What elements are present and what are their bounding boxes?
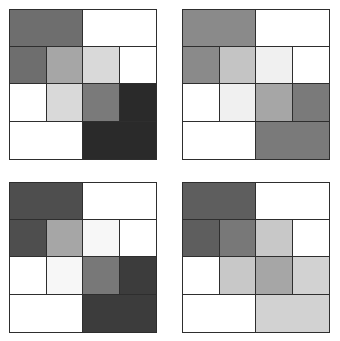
- grid-panel-bottom-right: [182, 182, 330, 333]
- grid-cell: [120, 257, 157, 295]
- grid-cell: [256, 257, 293, 295]
- grid-cell: [220, 84, 257, 122]
- grid-row: [10, 220, 156, 257]
- grid-cell: [256, 47, 293, 84]
- grid-cell: [83, 183, 156, 220]
- grid-cell: [183, 220, 220, 257]
- grid-cell: [220, 257, 257, 295]
- grid-cell: [183, 10, 256, 47]
- grid-cell: [183, 84, 220, 122]
- grid-cell: [47, 220, 84, 257]
- grid-cell: [256, 84, 293, 122]
- grid-cell: [83, 10, 156, 47]
- grid-row: [10, 84, 156, 122]
- grid-cell: [83, 257, 120, 295]
- grid-cell: [10, 257, 47, 295]
- grid-panel-top-left: [9, 9, 157, 160]
- grid-cell: [120, 220, 157, 257]
- grid-row: [183, 183, 329, 220]
- grid-cell: [256, 295, 329, 332]
- grid-cell: [120, 84, 157, 122]
- grid-row: [10, 295, 156, 332]
- grid-cell: [47, 257, 84, 295]
- grid-row: [10, 183, 156, 220]
- grid-cell: [220, 220, 257, 257]
- grid-cell: [256, 183, 329, 220]
- grid-row: [10, 122, 156, 159]
- grid-cell: [293, 84, 330, 122]
- grid-cell: [83, 295, 156, 332]
- grid-cell: [293, 47, 330, 84]
- grid-cell: [183, 295, 256, 332]
- grid-cell: [120, 47, 157, 84]
- grid-cell: [10, 47, 47, 84]
- grid-cell: [293, 257, 330, 295]
- grid-cell: [83, 47, 120, 84]
- grid-row: [183, 122, 329, 159]
- grid-row: [183, 84, 329, 122]
- grid-cell: [293, 220, 330, 257]
- grid-cell: [10, 183, 83, 220]
- grid-cell: [183, 47, 220, 84]
- grid-cell: [256, 220, 293, 257]
- grid-cell: [83, 220, 120, 257]
- grid-cell: [10, 10, 83, 47]
- grid-cell: [10, 295, 83, 332]
- grid-panel-top-right: [182, 9, 330, 160]
- grid-cell: [220, 47, 257, 84]
- grid-panel-bottom-left: [9, 182, 157, 333]
- grid-cell: [10, 84, 47, 122]
- grid-row: [183, 220, 329, 257]
- grid-row: [10, 257, 156, 295]
- grid-cell: [47, 47, 84, 84]
- grid-cell: [83, 84, 120, 122]
- grid-cell: [83, 122, 156, 159]
- grid-row: [183, 257, 329, 295]
- grid-cell: [10, 220, 47, 257]
- grid-row: [10, 10, 156, 47]
- grid-cell: [183, 183, 256, 220]
- grid-row: [183, 47, 329, 84]
- grid-row: [10, 47, 156, 84]
- grid-cell: [256, 10, 329, 47]
- grid-cell: [183, 122, 256, 159]
- grid-cell: [10, 122, 83, 159]
- grid-row: [183, 295, 329, 332]
- grid-row: [183, 10, 329, 47]
- grid-cell: [183, 257, 220, 295]
- grid-cell: [47, 84, 84, 122]
- grid-cell: [256, 122, 329, 159]
